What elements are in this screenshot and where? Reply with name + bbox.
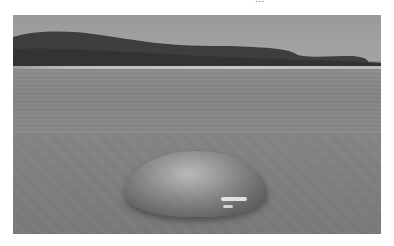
headland xyxy=(13,29,381,67)
jellyfish-highlight xyxy=(221,197,247,201)
cut-off-caption-text: ... xyxy=(255,0,385,4)
beach-photo xyxy=(13,15,381,234)
water xyxy=(13,69,381,134)
jellyfish-highlight-small xyxy=(223,205,233,208)
